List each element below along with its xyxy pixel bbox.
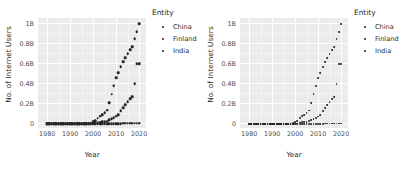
- left-panel: No. of Internet Users 00.2B0.4B0.6B0.8B1…: [0, 0, 202, 175]
- data-point: [129, 49, 132, 52]
- legend-item[interactable]: India: [152, 45, 202, 57]
- gridline-minor-horizontal: [240, 53, 348, 54]
- gridline-vertical: [93, 18, 94, 128]
- legend-item-label: China: [173, 23, 192, 31]
- legend-dot-icon: [360, 38, 370, 40]
- data-point: [126, 52, 129, 55]
- data-point: [138, 122, 141, 125]
- y-tick-label: 0.6B: [221, 60, 236, 68]
- data-point: [336, 38, 338, 40]
- data-point: [133, 38, 136, 41]
- data-point: [333, 96, 335, 98]
- legend-dot-icon: [360, 26, 370, 28]
- gridline-minor-horizontal: [38, 33, 146, 34]
- data-point: [324, 61, 326, 63]
- data-point: [138, 23, 141, 26]
- y-tick-label: 1B: [228, 20, 236, 28]
- data-point: [299, 117, 301, 119]
- data-point: [122, 107, 125, 110]
- gridline-vertical: [272, 18, 273, 128]
- x-axis-title: Year: [38, 150, 146, 159]
- gridline-vertical: [295, 18, 296, 128]
- gridline-minor-vertical: [59, 18, 60, 128]
- data-point: [340, 23, 342, 25]
- data-point: [310, 102, 312, 104]
- data-point: [117, 71, 120, 74]
- data-point: [315, 85, 317, 87]
- legend-item[interactable]: Finland: [354, 33, 404, 45]
- gridline-horizontal: [240, 43, 348, 44]
- x-tick-label: 1990: [264, 130, 280, 138]
- legend-item[interactable]: India: [354, 45, 404, 57]
- gridline-horizontal: [38, 43, 146, 44]
- legend-item-label: China: [375, 23, 394, 31]
- legend-right: Entity China Finland India: [354, 8, 404, 57]
- x-tick-label: 1980: [241, 130, 257, 138]
- data-point: [124, 57, 127, 60]
- x-tick-label: 2020: [333, 130, 349, 138]
- x-tick-label: 1990: [62, 130, 78, 138]
- x-axis-title: Year: [240, 150, 348, 159]
- data-point: [306, 112, 308, 114]
- data-point: [301, 115, 303, 117]
- gridline-vertical: [341, 18, 342, 128]
- legend-item-label: Finland: [375, 35, 399, 43]
- data-point: [131, 96, 134, 99]
- x-tick-label: 2020: [131, 130, 147, 138]
- y-tick-labels-left: 00.2B0.4B0.6B0.8B1B: [12, 18, 36, 128]
- data-point: [329, 101, 331, 103]
- y-tick-label: 0.4B: [221, 80, 236, 88]
- data-point: [313, 93, 315, 95]
- figure-canvas: No. of Internet Users 00.2B0.4B0.6B0.8B1…: [0, 0, 404, 175]
- data-point: [333, 46, 335, 48]
- data-point: [322, 66, 324, 68]
- plot-area-right: [240, 18, 348, 128]
- data-point: [338, 31, 340, 33]
- data-point: [136, 31, 139, 34]
- gridline-horizontal: [38, 23, 146, 24]
- plot-area-left: [38, 18, 146, 128]
- gridline-minor-horizontal: [240, 113, 348, 114]
- gridline-minor-horizontal: [240, 93, 348, 94]
- gridline-minor-horizontal: [38, 113, 146, 114]
- y-tick-label: 0.2B: [19, 100, 34, 108]
- legend-item[interactable]: China: [152, 21, 202, 33]
- legend-item[interactable]: Finland: [152, 33, 202, 45]
- data-point: [131, 45, 134, 48]
- data-point: [126, 101, 129, 104]
- data-point: [103, 112, 106, 115]
- data-point: [322, 110, 324, 112]
- data-point: [119, 66, 122, 69]
- data-point: [331, 49, 333, 51]
- y-tick-label: 0.8B: [19, 40, 34, 48]
- data-point: [320, 114, 322, 116]
- data-point: [106, 109, 109, 112]
- data-point: [308, 109, 310, 111]
- data-point: [317, 77, 319, 79]
- gridline-horizontal: [38, 103, 146, 104]
- data-point: [113, 84, 116, 87]
- legend-item-label: Finland: [173, 35, 197, 43]
- y-tick-label: 0.8B: [221, 40, 236, 48]
- right-panel: No. of Internet Users 00.2B0.4B0.6B0.8B1…: [202, 0, 404, 175]
- data-point: [138, 63, 141, 66]
- x-tick-label: 2010: [310, 130, 326, 138]
- y-tick-label: 1B: [26, 20, 34, 28]
- gridline-horizontal: [240, 103, 348, 104]
- gridline-horizontal: [38, 83, 146, 84]
- legend-item[interactable]: China: [354, 21, 404, 33]
- x-tick-label: 2000: [287, 130, 303, 138]
- data-point: [122, 61, 125, 64]
- data-point: [329, 53, 331, 55]
- data-point: [340, 123, 342, 125]
- x-tick-label: 1980: [39, 130, 55, 138]
- data-point: [340, 63, 342, 65]
- data-point: [324, 107, 326, 109]
- data-point: [331, 98, 333, 100]
- y-tick-label: 0.6B: [19, 60, 34, 68]
- x-tick-labels-left: 19801990200020102020: [38, 130, 146, 142]
- legend-dot-icon: [158, 38, 168, 41]
- gridline-minor-horizontal: [38, 73, 146, 74]
- data-point: [326, 57, 328, 59]
- gridline-minor-horizontal: [38, 93, 146, 94]
